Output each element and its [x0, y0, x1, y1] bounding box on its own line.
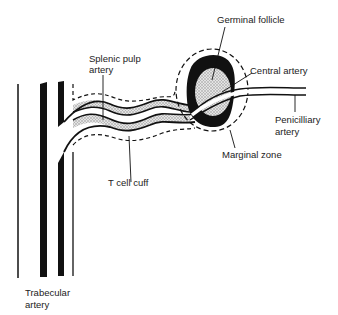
label-trabecular-artery-2: artery [25, 299, 50, 310]
label-splenic-pulp-artery: Splenic pulp [89, 53, 141, 64]
label-germinal-follicle: Germinal follicle [217, 14, 285, 25]
label-penicilliary-artery: Penicilliary [275, 114, 321, 125]
label-marginal-zone: Marginal zone [222, 149, 282, 160]
spleen-artery-diagram: Germinal follicle Splenic pulp artery Ce… [0, 0, 338, 315]
label-trabecular-artery: Trabecular [25, 287, 70, 298]
label-t-cell-cuff: T cell cuff [108, 177, 149, 188]
label-central-artery: Central artery [250, 65, 308, 76]
trabecular-artery [18, 81, 73, 278]
label-splenic-pulp-artery-2: artery [89, 64, 114, 75]
label-penicilliary-artery-2: artery [275, 126, 300, 137]
